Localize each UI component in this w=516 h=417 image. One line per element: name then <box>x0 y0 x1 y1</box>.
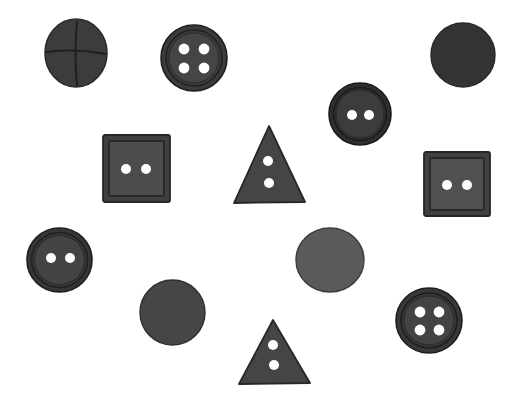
disc-body <box>140 280 205 345</box>
plain-disc-center <box>295 227 365 293</box>
button-face <box>404 296 454 345</box>
round-button-4-hole-lower-right <box>395 287 463 354</box>
plain-disc-top-right <box>430 22 496 88</box>
round-button-cross-slit <box>44 18 108 88</box>
button-hole <box>415 307 426 318</box>
button-hole <box>199 63 210 74</box>
button-hole <box>462 180 472 190</box>
button-hole <box>199 44 210 55</box>
image-canvas <box>0 0 516 417</box>
button-inner-frame <box>430 158 484 210</box>
button-inner-frame <box>109 141 164 196</box>
button-face <box>169 33 219 83</box>
triangle-body <box>239 320 310 384</box>
button-hole <box>347 110 357 120</box>
round-button-2-hole-upper-right <box>328 82 392 146</box>
button-hole <box>121 164 131 174</box>
round-button-4-hole-top <box>160 24 228 92</box>
disc-body <box>296 228 364 292</box>
button-hole <box>65 253 75 263</box>
button-hole <box>46 253 56 263</box>
button-hole <box>268 340 278 350</box>
button-hole <box>434 325 445 336</box>
button-face <box>35 236 85 285</box>
round-button-2-hole-left <box>26 227 93 293</box>
triangle-button-2-hole-top <box>232 124 307 205</box>
button-face <box>336 90 384 138</box>
button-hole <box>264 178 274 188</box>
button-hole <box>415 325 426 336</box>
square-button-2-hole-left <box>102 134 171 203</box>
triangle-button-2-hole-bottom <box>237 318 312 386</box>
button-hole <box>263 156 273 166</box>
button-hole <box>442 180 452 190</box>
button-hole <box>364 110 374 120</box>
square-button-2-hole-right <box>423 151 491 217</box>
button-hole <box>269 360 279 370</box>
button-hole <box>179 63 190 74</box>
button-hole <box>434 307 445 318</box>
disc-body <box>431 23 495 87</box>
button-hole <box>141 164 151 174</box>
button-hole <box>179 44 190 55</box>
plain-disc-lower-left <box>139 279 206 346</box>
